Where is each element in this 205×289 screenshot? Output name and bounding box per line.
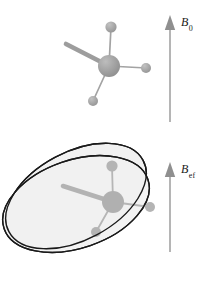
- b0-label: B0: [181, 16, 192, 31]
- lower-molecule-top-atom: [106, 160, 117, 171]
- diagram-svg: [0, 0, 205, 289]
- b0-label-subscript: 0: [189, 24, 193, 33]
- upper-molecule: [66, 21, 151, 106]
- beff-label-subscript: ef: [189, 171, 195, 180]
- upper-molecule-lower-left-atom: [88, 96, 98, 106]
- lower-molecule-center-atom: [102, 191, 124, 213]
- beff-arrow-head-icon: [165, 162, 175, 177]
- upper-molecule-right-atom: [141, 63, 151, 73]
- figure-canvas: B0 Bef: [0, 0, 205, 289]
- upper-molecule-top-atom: [105, 21, 116, 32]
- beff-arrow: [165, 162, 175, 252]
- b0-arrow-head-icon: [165, 15, 175, 30]
- beff-label: Bef: [181, 163, 195, 178]
- beff-label-symbol: B: [181, 162, 188, 176]
- lower-molecule-right-atom: [145, 202, 155, 212]
- upper-molecule-center-atom: [98, 55, 120, 77]
- b0-arrow: [165, 15, 175, 122]
- b0-label-symbol: B: [181, 15, 188, 29]
